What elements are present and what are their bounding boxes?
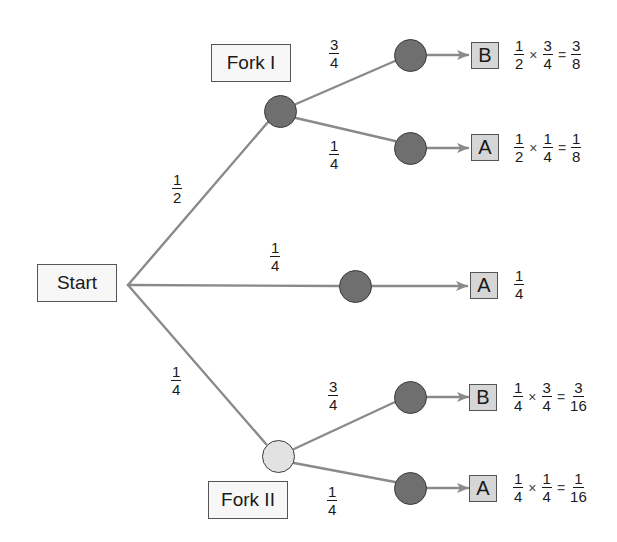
denominator: 16 bbox=[570, 488, 587, 504]
times-sign: × bbox=[528, 480, 536, 496]
numerator: 1 bbox=[514, 38, 524, 55]
denominator: 4 bbox=[330, 155, 338, 171]
numerator: 3 bbox=[543, 38, 553, 55]
edge-fork2-bottom bbox=[294, 463, 395, 482]
denominator: 4 bbox=[514, 488, 522, 504]
probability-tree-diagram: Start Fork I Fork II 1 2 1 4 1 4 3 4 1 4… bbox=[0, 0, 617, 542]
denominator: 2 bbox=[173, 189, 181, 205]
leaf-node-3 bbox=[339, 270, 372, 303]
edge-fork1-top bbox=[296, 61, 395, 104]
outcome-box-1: B bbox=[471, 42, 499, 69]
edge-fork2-top bbox=[294, 402, 395, 449]
leaf-node-1 bbox=[394, 39, 427, 72]
numerator: 1 bbox=[542, 471, 552, 488]
times-sign: × bbox=[529, 140, 537, 156]
start-box: Start bbox=[37, 264, 117, 302]
outcome-box-4: B bbox=[469, 384, 497, 411]
denominator: 4 bbox=[544, 148, 552, 164]
equals-sign: = bbox=[558, 47, 566, 63]
prob-start-fork1: 1 2 bbox=[172, 172, 182, 205]
numerator: 1 bbox=[171, 364, 181, 381]
denominator: 4 bbox=[544, 55, 552, 71]
numerator: 1 bbox=[327, 484, 337, 501]
denominator: 4 bbox=[329, 396, 337, 412]
numerator: 1 bbox=[571, 131, 581, 148]
denominator: 2 bbox=[515, 148, 523, 164]
numerator: 1 bbox=[270, 240, 280, 257]
denominator: 4 bbox=[172, 381, 180, 397]
denominator: 4 bbox=[543, 488, 551, 504]
numerator: 1 bbox=[329, 138, 339, 155]
denominator: 4 bbox=[543, 397, 551, 413]
numerator: 1 bbox=[172, 172, 182, 189]
equals-sign: = bbox=[557, 389, 565, 405]
numerator: 1 bbox=[573, 471, 583, 488]
numerator: 3 bbox=[542, 380, 552, 397]
outcome-box-2: A bbox=[471, 134, 499, 161]
prob-fork1-bottom: 1 4 bbox=[329, 138, 339, 171]
times-sign: × bbox=[529, 47, 537, 63]
times-sign: × bbox=[528, 389, 536, 405]
denominator: 4 bbox=[514, 397, 522, 413]
calc-1: 12 × 34 = 38 bbox=[514, 38, 581, 71]
numerator: 1 bbox=[513, 471, 523, 488]
equals-sign: = bbox=[557, 480, 565, 496]
numerator: 1 bbox=[514, 131, 524, 148]
numerator: 1 bbox=[513, 380, 523, 397]
denominator: 16 bbox=[570, 397, 587, 413]
edge-start-middle bbox=[128, 285, 339, 286]
denominator: 8 bbox=[572, 55, 580, 71]
denominator: 4 bbox=[328, 501, 336, 517]
denominator: 4 bbox=[515, 285, 523, 301]
edge-fork1-bottom bbox=[296, 118, 395, 141]
prob-start-fork2: 1 4 bbox=[171, 364, 181, 397]
numerator: 1 bbox=[514, 268, 524, 285]
numerator: 3 bbox=[329, 37, 339, 54]
fork-1-node bbox=[264, 95, 297, 128]
numerator: 3 bbox=[573, 380, 583, 397]
fork-1-label: Fork I bbox=[211, 44, 291, 82]
denominator: 2 bbox=[515, 55, 523, 71]
calc-3: 14 bbox=[514, 268, 524, 301]
outcome-box-5: A bbox=[469, 475, 497, 502]
prob-fork2-top: 3 4 bbox=[328, 379, 338, 412]
prob-start-middle: 1 4 bbox=[270, 240, 280, 273]
denominator: 4 bbox=[330, 54, 338, 70]
calc-5: 14 × 14 = 116 bbox=[513, 471, 587, 504]
edge-start-fork1 bbox=[128, 122, 268, 285]
outcome-box-3: A bbox=[470, 272, 498, 299]
numerator: 3 bbox=[328, 379, 338, 396]
leaf-node-2 bbox=[394, 132, 427, 165]
numerator: 3 bbox=[571, 38, 581, 55]
denominator: 8 bbox=[572, 148, 580, 164]
leaf-node-4 bbox=[394, 381, 427, 414]
prob-fork2-bottom: 1 4 bbox=[327, 484, 337, 517]
leaf-node-5 bbox=[394, 472, 427, 505]
edge-start-fork2 bbox=[128, 285, 266, 444]
calc-4: 14 × 34 = 316 bbox=[513, 380, 587, 413]
prob-fork1-top: 3 4 bbox=[329, 37, 339, 70]
fork-2-label: Fork II bbox=[208, 481, 288, 519]
calc-2: 12 × 14 = 18 bbox=[514, 131, 581, 164]
denominator: 4 bbox=[271, 257, 279, 273]
equals-sign: = bbox=[558, 140, 566, 156]
fork-2-node bbox=[262, 440, 295, 473]
numerator: 1 bbox=[543, 131, 553, 148]
